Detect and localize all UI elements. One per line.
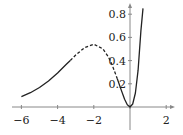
- axes: [12, 3, 175, 130]
- x-ticks: −6−4−22: [13, 105, 169, 127]
- x-tick-label: 2: [163, 114, 170, 127]
- chart: −6−4−22 0.20.40.60.8: [0, 0, 183, 135]
- curve-left-solid: [21, 61, 70, 97]
- y-tick-label: 0.6: [109, 31, 127, 44]
- y-ticks: 0.20.40.60.8: [109, 8, 133, 91]
- y-tick-label: 0.8: [109, 8, 127, 21]
- x-tick-label: −2: [86, 114, 102, 127]
- x-axis-arrow-icon: [170, 105, 175, 109]
- y-tick-label: 0.4: [109, 55, 127, 68]
- x-tick-label: −4: [49, 114, 65, 127]
- y-axis-arrow-icon: [128, 3, 132, 8]
- x-tick-label: −6: [13, 114, 29, 127]
